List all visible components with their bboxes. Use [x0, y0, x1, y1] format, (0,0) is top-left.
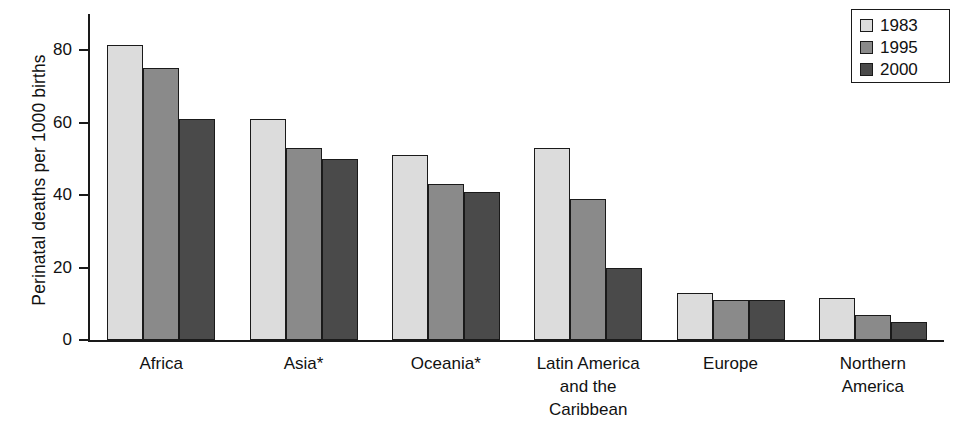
bar [428, 184, 464, 340]
y-axis-tick: 0 [79, 339, 88, 341]
bar [749, 300, 785, 340]
bar-group [250, 14, 358, 340]
x-axis-category-label: NorthernAmerica [788, 352, 958, 398]
bar [464, 192, 500, 341]
y-axis-tick-label: 40 [53, 185, 72, 205]
bar [891, 322, 927, 340]
bar [713, 300, 749, 340]
bars-layer [90, 14, 944, 340]
bar-group [534, 14, 642, 340]
y-axis-tick-label: 60 [53, 113, 72, 133]
bar [392, 155, 428, 340]
y-axis-tick-label: 20 [53, 258, 72, 278]
y-axis-tick-label: 80 [53, 40, 72, 60]
legend-item-label: 2000 [880, 61, 918, 78]
legend-item-label: 1995 [880, 39, 918, 56]
legend-item[interactable]: 2000 [860, 58, 949, 80]
legend-item[interactable]: 1995 [860, 36, 949, 58]
legend: 198319952000 [851, 9, 950, 83]
bar [855, 315, 891, 340]
y-axis-tick: 20 [79, 267, 88, 269]
bar [570, 199, 606, 340]
bar [250, 119, 286, 340]
legend-swatch-icon [860, 63, 873, 76]
bar [606, 268, 642, 340]
plot-area: 020406080 [88, 14, 848, 342]
bar-group [677, 14, 785, 340]
bar [322, 159, 358, 340]
x-axis-category-label-line: Northern [788, 352, 958, 375]
legend-swatch-icon [860, 41, 873, 54]
y-axis-tick: 80 [79, 49, 88, 51]
x-axis-category-label-line: Caribbean [503, 398, 673, 421]
legend-swatch-icon [860, 19, 873, 32]
y-axis-title: Perinatal deaths per 1000 births [26, 30, 52, 330]
bar [179, 119, 215, 340]
bar-group [107, 14, 215, 340]
x-axis-category-label-line: America [788, 375, 958, 398]
y-axis-tick-label: 0 [63, 330, 72, 350]
perinatal-deaths-bar-chart: Perinatal deaths per 1000 births 0204060… [0, 0, 958, 432]
bar-group [392, 14, 500, 340]
x-axis-category-label-line: and the [503, 375, 673, 398]
bar [107, 45, 143, 340]
y-axis-tick: 40 [79, 194, 88, 196]
legend-item-label: 1983 [880, 17, 918, 34]
x-axis-category-labels: AfricaAsia*Oceania*Latin Americaand theC… [90, 352, 946, 430]
legend-item[interactable]: 1983 [860, 14, 949, 36]
bar [143, 68, 179, 340]
x-axis-line [88, 340, 944, 342]
bar [534, 148, 570, 340]
bar [819, 298, 855, 340]
bar [677, 293, 713, 340]
bar [286, 148, 322, 340]
y-axis-tick: 60 [79, 122, 88, 124]
